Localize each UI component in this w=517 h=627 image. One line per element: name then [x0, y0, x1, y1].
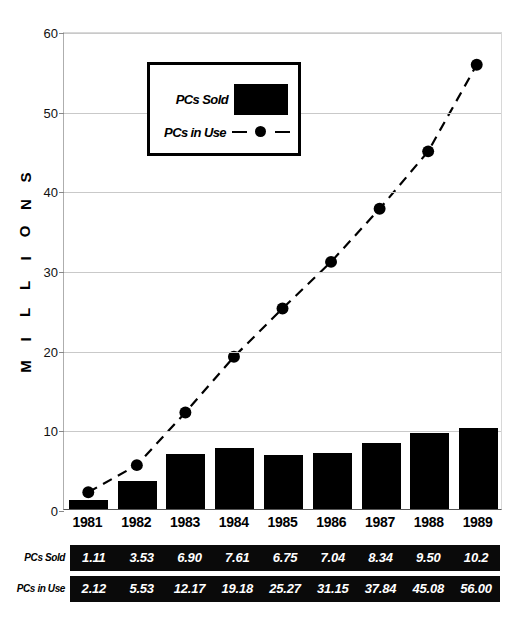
y-tick-label: 30 — [44, 265, 58, 280]
y-axis-title-letter: I — [17, 337, 32, 341]
x-tick-label: 1984 — [219, 514, 249, 530]
y-axis-title-letter: L — [17, 308, 32, 317]
y-tick-label: 0 — [51, 504, 58, 519]
line-data-point-marker — [82, 486, 94, 498]
line-data-point-marker — [179, 406, 191, 418]
table-cell: 12.17 — [174, 576, 206, 602]
gridline — [64, 352, 501, 353]
gridline — [64, 272, 501, 273]
y-axis-title-letter: S — [17, 172, 32, 182]
legend-entry-pcs-sold: PCs Sold — [150, 79, 298, 119]
y-tick-mark — [59, 113, 64, 114]
legend-label-pcs-in-use: PCs in Use — [158, 125, 232, 140]
table-cell: 5.53 — [129, 576, 154, 602]
line-data-point-marker — [422, 145, 434, 157]
legend-dash-right-icon — [275, 131, 290, 133]
table-cell: 1.11 — [82, 545, 106, 571]
line-data-point-marker — [325, 256, 337, 268]
legend-label-pcs-sold: PCs Sold — [160, 92, 234, 107]
table-row-header: PCs Sold — [0, 545, 70, 571]
y-tick-label: 40 — [44, 185, 58, 200]
gridline — [64, 33, 501, 34]
table-cell: 6.90 — [177, 545, 202, 571]
y-axis-title-letter: L — [17, 281, 32, 290]
y-tick-label: 50 — [44, 105, 58, 120]
table-cell: 19.18 — [221, 576, 253, 602]
table-cell: 7.04 — [321, 545, 346, 571]
x-tick-label: 1986 — [316, 514, 346, 530]
x-tick-label: 1983 — [170, 514, 200, 530]
bar — [264, 455, 303, 509]
legend-dash-left-icon — [232, 131, 247, 133]
line-data-point-marker — [277, 303, 289, 315]
table-cell: 37.84 — [365, 576, 397, 602]
bar — [410, 433, 449, 509]
line-data-point-marker — [131, 459, 143, 471]
line-data-point-marker — [374, 203, 386, 215]
table-cell: 31.15 — [317, 576, 349, 602]
y-tick-mark — [59, 511, 64, 512]
table-cell: 3.53 — [129, 545, 154, 571]
table-cell: 10.2 — [464, 545, 489, 571]
bar — [215, 448, 254, 509]
table-row: PCs Sold1.113.536.907.616.757.048.349.50… — [0, 545, 517, 571]
table-cell: 8.34 — [368, 545, 393, 571]
table-cell: 45.08 — [413, 576, 445, 602]
y-axis-title-letter: N — [18, 199, 33, 210]
y-tick-mark — [59, 33, 64, 34]
x-tick-label: 1988 — [414, 514, 444, 530]
legend-swatch-bar-icon — [234, 84, 288, 115]
bar — [459, 428, 498, 509]
x-tick-label: 1985 — [268, 514, 298, 530]
line-data-point-marker — [471, 59, 483, 71]
x-tick-label: 1981 — [72, 514, 102, 530]
table-row: PCs in Use2.125.5312.1719.1825.2731.1537… — [0, 576, 517, 602]
y-axis-title-letter: O — [17, 226, 32, 238]
y-axis-title-letter: I — [17, 256, 32, 260]
table-cell: 7.61 — [225, 545, 250, 571]
y-tick-mark — [59, 431, 64, 432]
x-tick-label: 1989 — [463, 514, 493, 530]
y-tick-label: 10 — [44, 424, 58, 439]
pc-sales-chart-figure: MILLIONS 0102030405060 PCs Sold PCs in U… — [0, 0, 517, 627]
legend-entry-pcs-in-use: PCs in Use — [150, 119, 298, 145]
x-tick-label: 1987 — [365, 514, 395, 530]
bar — [362, 443, 401, 509]
y-axis-title: MILLIONS — [12, 165, 38, 380]
y-tick-mark — [59, 192, 64, 193]
line-data-point-marker — [228, 351, 240, 363]
table-cell: 56.00 — [460, 576, 492, 602]
legend-dashed-line-marker-icon — [232, 125, 290, 139]
gridline — [64, 192, 501, 193]
bar — [313, 453, 352, 509]
bar — [118, 481, 157, 509]
x-tick-label: 1982 — [121, 514, 151, 530]
table-cell: 9.50 — [416, 545, 441, 571]
y-tick-label: 60 — [44, 26, 58, 41]
y-tick-mark — [59, 272, 64, 273]
table-cell: 25.27 — [269, 576, 301, 602]
table-row-header: PCs in Use — [0, 576, 70, 602]
chart-legend: PCs Sold PCs in Use — [147, 62, 301, 156]
table-cell: 6.75 — [273, 545, 298, 571]
legend-dot-marker-icon — [255, 126, 266, 137]
bar — [166, 454, 205, 509]
y-tick-label: 20 — [44, 344, 58, 359]
data-table: PCs Sold1.113.536.907.616.757.048.349.50… — [0, 545, 517, 607]
y-axis-title-letter: M — [18, 360, 33, 373]
bar — [69, 500, 108, 509]
gridline — [64, 431, 501, 432]
y-tick-mark — [59, 352, 64, 353]
table-cell: 2.12 — [82, 576, 107, 602]
